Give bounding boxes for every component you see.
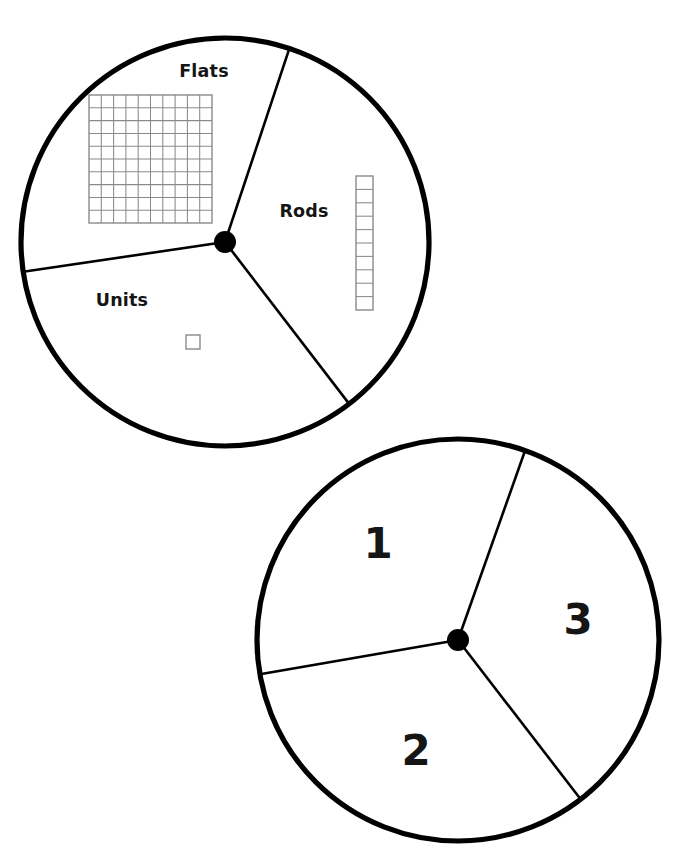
- flat-10x10-grid: [89, 95, 212, 223]
- sector-label-one: 1: [363, 519, 392, 568]
- spinner-hub-blocks: [214, 231, 236, 253]
- rod-1x10-strip: [356, 176, 373, 310]
- number-spinner[interactable]: 1 2 3: [257, 439, 659, 841]
- sector-label-three: 3: [563, 595, 592, 644]
- sector-label-flats: Flats: [179, 61, 229, 81]
- worksheet-page: Flats Rods Units 1 2 3: [0, 0, 688, 863]
- sector-label-units: Units: [96, 290, 148, 310]
- base-ten-block-spinner[interactable]: Flats Rods Units: [21, 38, 429, 446]
- unit-single-square-outline: [186, 335, 200, 349]
- sector-label-rods: Rods: [279, 201, 328, 221]
- unit-single-square: [186, 335, 200, 349]
- sector-label-two: 2: [401, 726, 430, 775]
- spinner-hub-numbers: [447, 629, 469, 651]
- spinners-canvas: Flats Rods Units 1 2 3: [0, 0, 688, 863]
